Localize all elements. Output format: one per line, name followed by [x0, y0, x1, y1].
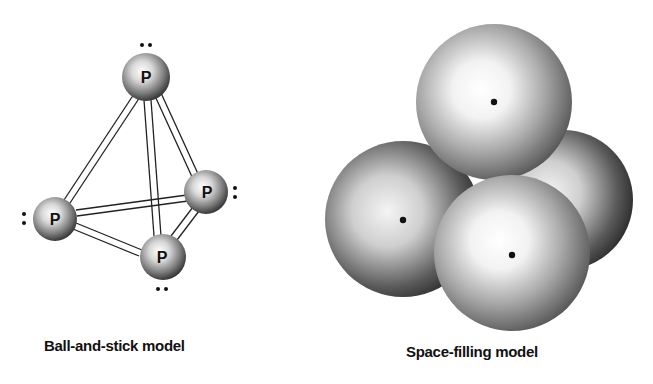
- space-filling-caption: Space-filling model: [406, 343, 538, 360]
- atom-left: P: [22, 197, 77, 241]
- nucleus-dot: [400, 217, 406, 223]
- nucleus-dot: [509, 252, 515, 258]
- atom-bottom: P: [140, 234, 186, 291]
- bond-left-bottom: [73, 223, 142, 256]
- ball-and-stick-caption: Ball-and-stick model: [44, 337, 185, 354]
- lone-pair-dot: [148, 43, 152, 47]
- lone-pair-dot: [164, 287, 168, 291]
- lone-pair-dot: [233, 186, 237, 190]
- bond-top-bottom: [144, 100, 161, 236]
- bond-top-right: [155, 93, 199, 179]
- lone-pair-dot: [22, 221, 26, 225]
- atom-right: P: [184, 170, 237, 214]
- svg-text:P: P: [157, 249, 168, 266]
- bond-top-left: [62, 94, 140, 206]
- bond-left-right: [76, 195, 188, 216]
- lone-pair-dot: [156, 287, 160, 291]
- svg-text:P: P: [202, 184, 213, 201]
- nucleus-dot: [491, 99, 497, 105]
- lone-pair-dot: [140, 43, 144, 47]
- lone-pair-dot: [22, 212, 26, 216]
- diagram-canvas: P P P P: [0, 0, 653, 384]
- svg-text:P: P: [50, 211, 61, 228]
- space-filling-model: [325, 24, 633, 331]
- bond-right-bottom: [171, 207, 199, 240]
- bonds: [62, 93, 199, 256]
- atom-top: P: [122, 43, 170, 101]
- atom-symbol: P: [141, 69, 152, 86]
- lone-pair-dot: [233, 195, 237, 199]
